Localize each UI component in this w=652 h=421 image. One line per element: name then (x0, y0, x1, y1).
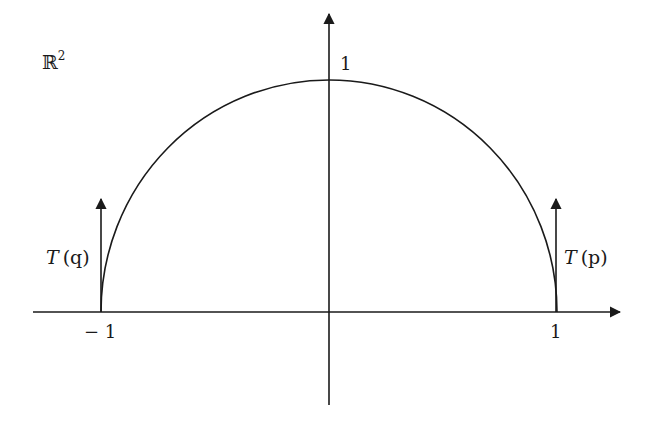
space-label: ℝ2 (42, 49, 65, 73)
vector-label-left: T(q) (46, 246, 90, 268)
diagram-canvas: ℝ2 1 − 1 1 T(q) T(p) (0, 0, 652, 421)
x-tick-label-1: 1 (550, 321, 561, 342)
x-tick-label-neg1: − 1 (84, 321, 116, 342)
y-tick-label-1: 1 (340, 53, 351, 74)
vector-label-right: T(p) (564, 246, 608, 268)
